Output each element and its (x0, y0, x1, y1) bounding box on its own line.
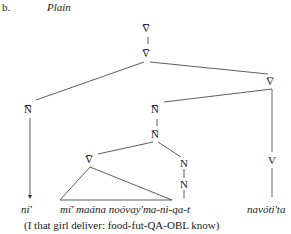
node-nbar3-mid: N̅̅̅ (151, 104, 159, 115)
node-n2: N (180, 179, 188, 190)
leaf-right: navóti'ta (247, 203, 285, 215)
leaf-left: ní' (21, 203, 32, 215)
node-nbar3-left: N̅̅̅ (24, 104, 32, 115)
gloss: (I that girl deliver: food-fut-QA-OBL kn… (24, 219, 219, 231)
node-vbar1-right: V̅ (266, 76, 274, 87)
node-vbar2: V̅̅ (142, 48, 150, 59)
node-root-vbar3: V̅̅̅ (142, 23, 150, 34)
node-n1: N (180, 158, 188, 169)
leaf-middle: mí' maána noóvay'ma-ni-qa-t (60, 203, 190, 215)
tree-branches (0, 0, 291, 234)
node-v-right: V (268, 155, 276, 166)
node-vbar2-inner: V̅̅ (85, 154, 93, 165)
node-nbar1-mid: N̅ (151, 129, 159, 140)
